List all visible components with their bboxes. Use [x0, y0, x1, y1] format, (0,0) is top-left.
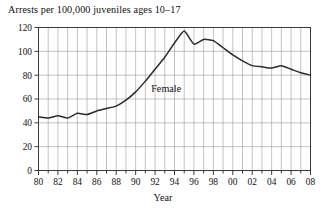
svg-text:84: 84	[73, 177, 83, 187]
svg-text:40: 40	[23, 118, 33, 128]
svg-text:98: 98	[209, 177, 219, 187]
svg-text:90: 90	[131, 177, 141, 187]
svg-text:60: 60	[23, 94, 33, 104]
svg-text:94: 94	[170, 177, 180, 187]
svg-text:82: 82	[53, 177, 63, 187]
y-axis-tick-labels: 020406080100120	[18, 23, 32, 176]
svg-text:86: 86	[92, 177, 102, 187]
x-axis-label: Year	[0, 192, 326, 203]
chart-container: Arrests per 100,000 juveniles ages 10–17…	[0, 0, 326, 214]
svg-text:08: 08	[306, 177, 316, 187]
svg-text:20: 20	[23, 142, 33, 152]
svg-text:80: 80	[23, 71, 33, 81]
svg-text:0: 0	[27, 166, 32, 176]
svg-text:96: 96	[189, 177, 199, 187]
y-axis-ticks	[35, 28, 39, 171]
svg-text:120: 120	[18, 23, 32, 33]
x-axis-tick-labels: 808284868890929496980002040608	[34, 177, 316, 187]
svg-text:06: 06	[286, 177, 296, 187]
svg-text:00: 00	[228, 177, 238, 187]
series-label-female: Female	[151, 83, 181, 94]
svg-text:92: 92	[150, 177, 160, 187]
svg-text:80: 80	[34, 177, 44, 187]
svg-text:100: 100	[18, 47, 32, 57]
x-axis-ticks	[39, 171, 311, 176]
chart-plot-area: 020406080100120 808284868890929496980002…	[0, 0, 326, 214]
svg-text:88: 88	[112, 177, 122, 187]
svg-text:02: 02	[248, 177, 258, 187]
svg-text:04: 04	[267, 177, 277, 187]
